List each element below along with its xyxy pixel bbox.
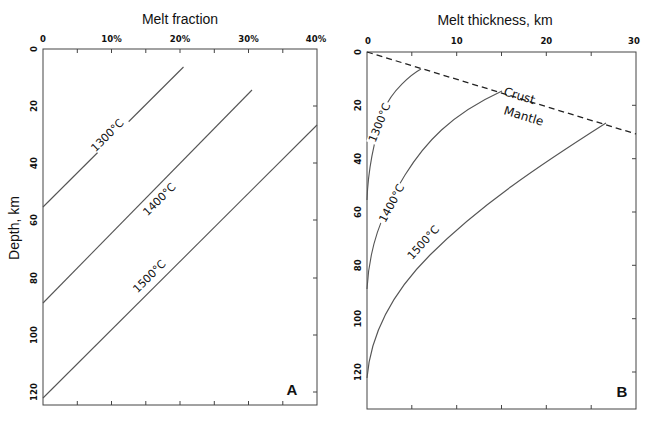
y-tick-label: 20 bbox=[353, 99, 363, 111]
x-tick-label: 20 bbox=[540, 36, 552, 46]
y-tick-label: 100 bbox=[353, 310, 363, 328]
y-tick-label: 120 bbox=[29, 383, 39, 401]
panel-a-x-tick-labels: 0 10% 20% 30% 40% bbox=[40, 34, 327, 44]
x-tick-label: 0 bbox=[365, 36, 371, 46]
x-tick-label: 20% bbox=[170, 34, 191, 44]
y-tick-label: 60 bbox=[29, 214, 39, 226]
y-axis-label: Depth, km bbox=[6, 196, 22, 260]
y-tick-label: 40 bbox=[353, 153, 363, 165]
x-tick-label: 30 bbox=[628, 36, 640, 46]
label-1300c: 1300°C bbox=[88, 116, 127, 155]
y-tick-label: 100 bbox=[29, 326, 39, 344]
panel-b: Melt thickness, km 0 10 20 30 bbox=[353, 12, 640, 409]
label-1300c: 1300°C bbox=[366, 101, 394, 144]
label-1500c: 1500°C bbox=[130, 257, 169, 296]
panel-b-label: B bbox=[617, 383, 628, 400]
label-1400c: 1400°C bbox=[140, 180, 179, 219]
y-tick-label: 40 bbox=[29, 157, 39, 169]
figure: Depth, km Melt fraction bbox=[0, 0, 649, 422]
panel-a-label: A bbox=[287, 381, 298, 398]
y-tick-label: 0 bbox=[29, 46, 39, 52]
panel-a-title: Melt fraction bbox=[142, 11, 218, 27]
panel-a-y-tick-labels: 0 20 40 60 80 100 120 bbox=[29, 46, 39, 401]
panel-b-y-tick-labels: 0 20 40 60 80 100 120 bbox=[353, 49, 363, 381]
x-tick-label: 0 bbox=[40, 34, 46, 44]
crust-mantle-boundary bbox=[367, 52, 636, 134]
x-tick-label: 10 bbox=[451, 36, 463, 46]
panel-b-frame bbox=[367, 52, 636, 409]
panel-a: Melt fraction bbox=[29, 11, 327, 405]
panel-b-ticks bbox=[412, 52, 636, 409]
panel-b-x-tick-labels: 0 10 20 30 bbox=[365, 36, 640, 46]
x-tick-label: 40% bbox=[306, 34, 327, 44]
y-tick-label: 80 bbox=[353, 259, 363, 271]
y-tick-label: 120 bbox=[353, 363, 363, 381]
curve-1500c bbox=[367, 123, 606, 378]
panel-a-x-ticks bbox=[77, 49, 317, 405]
panel-b-title: Melt thickness, km bbox=[437, 12, 552, 28]
x-tick-label: 30% bbox=[238, 34, 259, 44]
label-1500c: 1500°C bbox=[405, 223, 442, 263]
mantle-label: Mantle bbox=[502, 103, 545, 128]
panel-a-curve-labels: 1300°C 1400°C 1500°C bbox=[88, 114, 182, 295]
y-tick-label: 20 bbox=[29, 100, 39, 112]
y-tick-label: 80 bbox=[29, 272, 39, 284]
y-tick-label: 0 bbox=[353, 49, 363, 55]
y-tick-label: 60 bbox=[353, 206, 363, 218]
panel-a-frame bbox=[43, 49, 317, 405]
x-tick-label: 10% bbox=[101, 34, 122, 44]
panel-b-curve-labels: 1300°C 1400°C 1500°C bbox=[366, 100, 444, 262]
